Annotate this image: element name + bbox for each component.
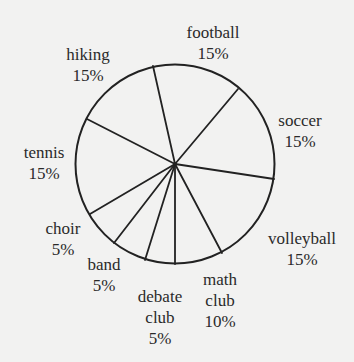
divider-football-soccer xyxy=(175,89,238,164)
label-hiking: hiking 15% xyxy=(66,44,109,86)
label-football: football 15% xyxy=(187,22,240,64)
pie-chart: football 15% hiking 15% soccer 15% tenni… xyxy=(0,0,354,362)
label-debate-club: debate club 5% xyxy=(138,286,182,349)
label-band: band 5% xyxy=(87,254,120,296)
label-choir: choir 5% xyxy=(46,218,81,260)
divider-volleyball-math xyxy=(175,164,222,253)
divider-soccer-volleyball xyxy=(175,164,274,179)
label-tennis: tennis 15% xyxy=(24,142,65,184)
pie-center xyxy=(173,162,177,166)
label-volleyball: volleyball 15% xyxy=(268,228,336,270)
divider-tennis-hiking xyxy=(87,119,175,164)
label-soccer: soccer 15% xyxy=(278,110,321,152)
divider-band-choir xyxy=(114,164,175,243)
divider-hiking-football xyxy=(153,66,175,164)
label-math-club: math club 10% xyxy=(203,269,237,332)
